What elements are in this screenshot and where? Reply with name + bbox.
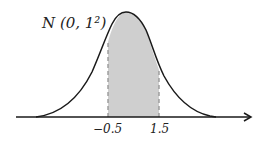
distribution-label: N (0, 1²)	[42, 14, 106, 32]
tick-label-lower: −0.5	[93, 122, 122, 136]
tick-label-upper: 1.5	[150, 122, 169, 136]
shaded-region	[108, 12, 159, 117]
normal-distribution-diagram	[0, 0, 266, 143]
